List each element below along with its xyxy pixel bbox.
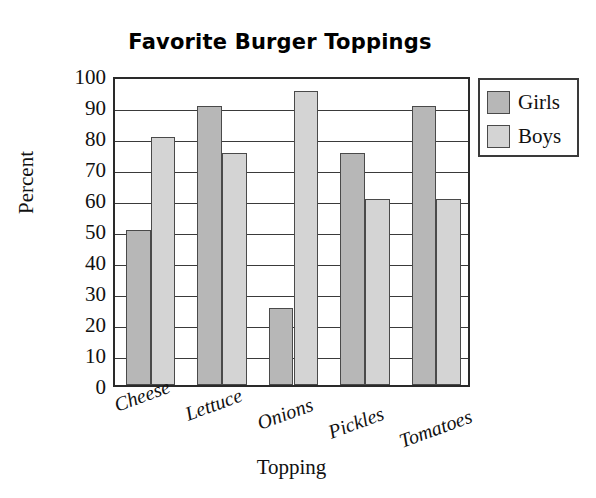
y-axis-tick-label: 90: [40, 98, 106, 119]
y-axis-tick-label: 70: [40, 160, 106, 181]
bar-lettuce-boys: [222, 153, 247, 386]
y-axis-tick-label: 50: [40, 222, 106, 243]
bar-onions-girls: [269, 308, 294, 386]
chart-title: Favorite Burger Toppings: [0, 30, 560, 54]
y-axis-tick-group: 0102030405060708090100: [40, 77, 106, 387]
y-axis-tick-label: 100: [40, 67, 106, 88]
bar-onions-boys: [294, 91, 319, 386]
x-axis-tick-group: CheeseLettuceOnionsPicklesTomatoes: [113, 387, 470, 457]
x-axis-tick-label-lettuce: Lettuce: [182, 384, 245, 426]
legend-swatch-icon: [487, 125, 510, 148]
legend-item-girls[interactable]: Girls: [487, 85, 577, 119]
x-axis-tick-label-onions: Onions: [254, 393, 316, 434]
bar-group: [115, 79, 468, 385]
legend-item-label: Girls: [518, 92, 560, 113]
chart-canvas: Favorite Burger Toppings 010203040506070…: [0, 0, 596, 498]
bar-pickles-girls: [340, 153, 365, 386]
bar-cheese-boys: [151, 137, 176, 385]
bar-cheese-girls: [126, 230, 151, 385]
y-axis-title: Percent: [14, 113, 39, 253]
x-axis-title: Topping: [113, 455, 470, 480]
y-axis-tick-label: 80: [40, 129, 106, 150]
legend: GirlsBoys: [478, 78, 579, 157]
bar-pickles-boys: [365, 199, 390, 385]
y-axis-tick-label: 20: [40, 315, 106, 336]
bar-tomatoes-boys: [436, 199, 461, 385]
legend-item-boys[interactable]: Boys: [487, 119, 577, 153]
y-axis-tick-label: 0: [40, 377, 106, 398]
x-axis-tick-label-pickles: Pickles: [325, 402, 387, 443]
y-axis-tick-label: 10: [40, 346, 106, 367]
x-axis-tick-label-tomatoes: Tomatoes: [396, 405, 475, 453]
legend-swatch-icon: [487, 91, 510, 114]
bar-lettuce-girls: [197, 106, 222, 385]
plot-area: [113, 77, 470, 387]
legend-item-label: Boys: [518, 126, 561, 147]
y-axis-tick-label: 30: [40, 284, 106, 305]
y-axis-tick-label: 60: [40, 191, 106, 212]
y-axis-tick-label: 40: [40, 253, 106, 274]
bar-tomatoes-girls: [412, 106, 437, 385]
